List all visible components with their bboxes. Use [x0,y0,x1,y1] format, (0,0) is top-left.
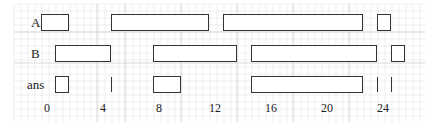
point-marker [391,77,392,92]
interval-box [153,76,181,93]
axis-tick-label: 16 [265,101,277,116]
interval-box [111,14,209,31]
interval-box [251,45,377,62]
row-label-ans: ans [27,77,44,93]
interval-box [377,14,391,31]
interval-box [41,14,69,31]
axis-tick-label: 20 [321,101,333,116]
point-marker [111,77,112,92]
axis-tick-label: 0 [44,101,50,116]
interval-box [223,14,363,31]
row-label-A: A [31,15,40,31]
axis-tick-label: 8 [156,101,162,116]
axis-tick-label: 24 [377,101,389,116]
interval-box [55,45,111,62]
row-label-B: B [31,46,40,62]
point-marker [377,77,378,92]
axis-tick-label: 4 [100,101,106,116]
interval-box [55,76,69,93]
interval-box [251,76,363,93]
interval-box [153,45,237,62]
interval-box [391,45,405,62]
axis-tick-label: 12 [209,101,221,116]
